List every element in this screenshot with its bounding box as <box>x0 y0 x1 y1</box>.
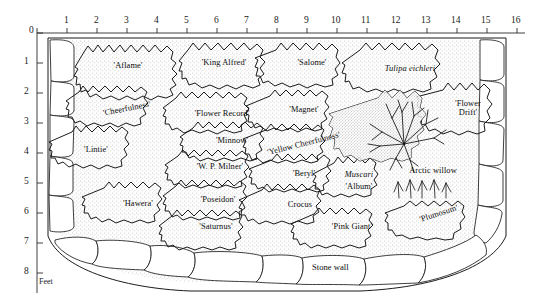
bed-label-saturnus: 'Saturnus' <box>189 223 243 232</box>
left-ruler-tick-6: 6 <box>24 207 29 217</box>
bed-label-flower-record: 'Flower Record' <box>186 110 258 119</box>
top-ruler-tick-15: 15 <box>481 16 491 26</box>
top-ruler-tick-11: 11 <box>361 16 370 26</box>
stone-wall-left <box>49 40 74 232</box>
top-ruler-tick-6: 6 <box>214 16 219 26</box>
bed-label-muscari-album: 'Album' <box>337 183 381 192</box>
top-ruler-tick-3: 3 <box>124 16 129 26</box>
left-ruler-tick-1: 1 <box>24 57 29 67</box>
stone-wall-label: Stone wall <box>312 262 349 272</box>
top-ruler-tick-14: 14 <box>451 16 461 26</box>
bed-label-aflame: 'Aflame' <box>105 62 151 71</box>
bed-label-lintie: 'Lintie' <box>76 146 116 155</box>
bed-label-tulipa-eichleri: Tulipa eichleri <box>375 65 445 74</box>
left-ruler-tick-7: 7 <box>24 237 29 247</box>
top-ruler-axis <box>37 28 525 33</box>
top-ruler-tick-7: 7 <box>244 16 249 26</box>
bed-label-salome: 'Salome' <box>288 59 336 68</box>
bed-label-king-alfred: 'King Alfred' <box>194 59 254 68</box>
top-ruler-tick-5: 5 <box>184 16 189 26</box>
left-ruler-tick-4: 4 <box>24 147 29 157</box>
top-ruler-tick-9: 9 <box>304 16 309 26</box>
top-ruler-origin: 0 <box>29 26 34 36</box>
bed-label-crocus: Crocus <box>278 201 322 210</box>
unit-label-feet: Feet <box>39 277 53 286</box>
left-ruler-tick-8: 8 <box>24 267 29 277</box>
bed-label-magnet: 'Magnet' <box>281 106 327 115</box>
left-ruler-tick-2: 2 <box>24 87 29 97</box>
top-ruler-tick-4: 4 <box>154 16 159 26</box>
left-ruler-axis <box>37 33 43 293</box>
top-ruler-tick-2: 2 <box>94 16 99 26</box>
bed-label-muscari: Muscari <box>337 171 381 180</box>
top-ruler-tick-10: 10 <box>331 16 341 26</box>
bed-label-pink-giant: 'Pink Giant' <box>323 223 381 232</box>
top-ruler-tick-16: 16 <box>511 16 521 26</box>
top-ruler-tick-13: 13 <box>421 16 431 26</box>
top-ruler-tick-8: 8 <box>274 16 279 26</box>
bed-label-hawera: 'Hawera' <box>114 200 162 209</box>
garden-plan-figure: 0 1 2 3 4 5 6 7 8 9 10 11 12 13 14 15 16… <box>0 0 556 305</box>
bed-label-arctic-willow: Arctic willow <box>400 167 466 176</box>
bed-label-flower-drift: 'Flower Drift' <box>446 100 490 118</box>
bed-label-wp-milner: 'W. P. Milner' <box>184 163 256 172</box>
bed-label-poseidon: 'Poseidon' <box>190 196 246 205</box>
bed-label-beryl: 'Beryl' <box>285 170 323 179</box>
left-ruler-tick-3: 3 <box>24 117 29 127</box>
left-ruler-tick-5: 5 <box>24 177 29 187</box>
top-ruler-tick-1: 1 <box>64 16 69 26</box>
top-ruler-tick-12: 12 <box>391 16 401 26</box>
bed-label-minnow: 'Minnow' <box>207 137 257 146</box>
